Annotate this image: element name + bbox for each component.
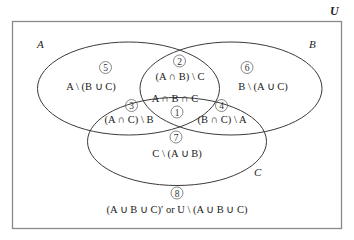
region-5: 5 A \ (B ∪ C): [66, 62, 116, 94]
region-7: 7 C \ (A ∪ B): [152, 131, 202, 160]
region-number: 4: [219, 101, 224, 111]
region-6: 6 B \ (A ∪ C): [238, 62, 288, 94]
region-2: 2 (A ∩ B) \ C: [155, 55, 204, 83]
set-b-label: B: [309, 38, 316, 50]
region-number: 3: [129, 101, 134, 111]
region-expression: (B ∩ C) \ A: [197, 114, 246, 126]
region-expression: (A ∪ B ∪ C)′ or U \ (A ∪ B ∪ C): [106, 204, 248, 216]
region-3: 3 (A ∩ C) \ B: [104, 100, 153, 127]
region-4: 4 (B ∩ C) \ A: [197, 100, 246, 127]
region-expression: C \ (A ∪ B): [152, 148, 202, 160]
region-expression: A ∩ B ∩ C: [152, 93, 199, 104]
region-number: 8: [175, 189, 180, 199]
region-expression: (A ∩ B) \ C: [155, 71, 204, 83]
region-8: 8 (A ∪ B ∪ C)′ or U \ (A ∪ B ∪ C): [106, 187, 248, 216]
venn-diagram: U A B C 5 A \ (B ∪ C) 6 B \ (A ∪ C) 2 (A…: [0, 0, 354, 240]
region-expression: A \ (B ∪ C): [66, 81, 116, 93]
region-1: A ∩ B ∩ C 1: [152, 93, 199, 118]
region-number: 2: [177, 57, 182, 67]
region-number: 1: [175, 108, 180, 118]
universe-label: U: [330, 4, 340, 18]
set-c-label: C: [254, 166, 262, 178]
region-expression: B \ (A ∪ C): [238, 81, 288, 93]
region-expression: (A ∩ C) \ B: [104, 114, 153, 126]
set-a-label: A: [36, 38, 44, 50]
region-number: 6: [245, 63, 250, 73]
region-number: 5: [103, 63, 108, 73]
region-number: 7: [174, 133, 179, 143]
